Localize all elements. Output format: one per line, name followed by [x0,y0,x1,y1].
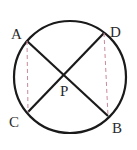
circle-chord-diagram: A D C B P [0,0,137,150]
dashed-segment-AC [27,41,28,112]
point-label-C: C [9,114,19,130]
point-label-P: P [60,83,68,99]
point-label-B: B [112,120,122,136]
point-label-A: A [11,26,22,42]
dashed-segment-DB [104,33,108,116]
chord-AB [27,41,108,116]
point-label-D: D [110,24,121,40]
chord-CD [28,33,104,112]
